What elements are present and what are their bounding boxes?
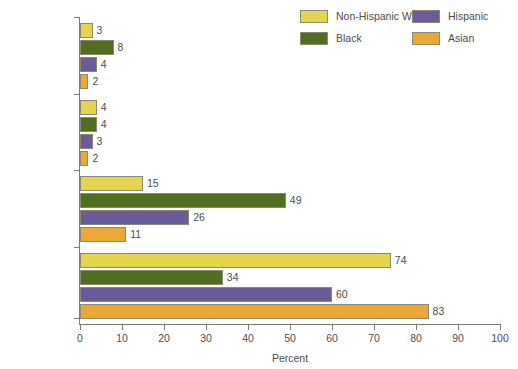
bar (80, 227, 126, 242)
bar-value-label: 49 (290, 193, 302, 208)
x-axis-tick (248, 324, 249, 330)
x-axis-tick-label: 60 (326, 332, 338, 344)
x-axis-tick-label: 30 (200, 332, 212, 344)
bar-value-label: 2 (92, 74, 98, 89)
x-axis-tick (290, 324, 291, 330)
x-axis-tick (122, 324, 123, 330)
bar (80, 253, 391, 268)
x-axis-tick (80, 324, 81, 330)
x-axis-tick-label: 90 (452, 332, 464, 344)
bar-value-label: 4 (101, 57, 107, 72)
x-axis-tick (206, 324, 207, 330)
y-axis-tick (74, 247, 80, 248)
bar (80, 100, 97, 115)
bar (80, 287, 332, 302)
x-axis-tick-label: 50 (284, 332, 296, 344)
bar (80, 304, 429, 319)
bar (80, 151, 88, 166)
x-axis-tick-label: 10 (116, 332, 128, 344)
x-axis-tick (416, 324, 417, 330)
bar-value-label: 60 (336, 287, 348, 302)
x-axis-tick-label: 40 (242, 332, 254, 344)
bar (80, 270, 223, 285)
y-axis-tick (74, 17, 80, 18)
bar (80, 134, 93, 149)
plot-area: 0102030405060708090100 38424432154926117… (80, 18, 500, 324)
y-axis-tick (74, 170, 80, 171)
bar (80, 57, 97, 72)
bar-value-label: 15 (147, 176, 159, 191)
bar (80, 176, 143, 191)
bar (80, 193, 286, 208)
x-axis-tick (500, 324, 501, 330)
x-axis-tick-label: 70 (368, 332, 380, 344)
bar-value-label: 11 (130, 227, 141, 242)
bar-value-label: 4 (101, 100, 107, 115)
bar-value-label: 8 (118, 40, 124, 55)
x-axis-tick (332, 324, 333, 330)
x-axis-tick-label: 80 (410, 332, 422, 344)
x-axis-title: Percent (80, 352, 500, 364)
bar-value-label: 3 (97, 23, 103, 38)
x-axis-tick (374, 324, 375, 330)
y-axis-tick (74, 94, 80, 95)
bar-value-label: 4 (101, 117, 107, 132)
bar (80, 74, 88, 89)
bar-chart: Non-Hispanic White Hispanic Black Asian … (0, 0, 518, 369)
x-axis-tick-label: 100 (491, 332, 509, 344)
x-axis-tick-label: 20 (158, 332, 170, 344)
bar-value-label: 34 (227, 270, 239, 285)
bar-value-label: 74 (395, 253, 407, 268)
bar-value-label: 26 (193, 210, 205, 225)
x-axis-tick (164, 324, 165, 330)
x-axis-tick-label: 0 (77, 332, 83, 344)
x-axis-tick (458, 324, 459, 330)
bar-value-label: 2 (92, 151, 98, 166)
bar (80, 40, 114, 55)
bar-value-label: 83 (433, 304, 445, 319)
bar (80, 23, 93, 38)
bar-value-label: 3 (97, 134, 103, 149)
bar (80, 210, 189, 225)
bar (80, 117, 97, 132)
